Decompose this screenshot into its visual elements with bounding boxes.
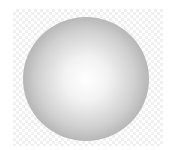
gradient-sphere — [23, 17, 149, 141]
